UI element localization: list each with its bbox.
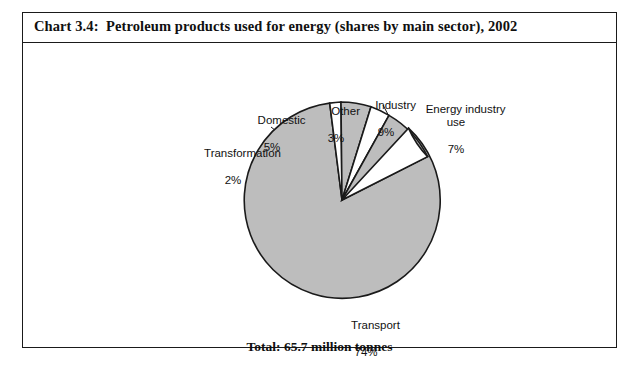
slice-label-other: Other 3%	[311, 91, 361, 172]
pie-plot-area: Transformation 2% Domestic 5% Other 3% I…	[23, 43, 616, 347]
slice-label-energy-industry-use-pct: 7%	[406, 143, 506, 157]
chart-title-bar: Chart 3.4: Petroleum products used for e…	[23, 13, 616, 43]
chart-total-note: Total: 65.7 million tonnes	[23, 339, 616, 355]
slice-label-domestic-pct: 5%	[230, 141, 314, 155]
slice-label-transport-name: Transport	[351, 319, 400, 331]
slice-label-transport: Transport 74%	[311, 305, 421, 369]
slice-label-domestic: Domestic 5%	[230, 100, 314, 181]
slice-label-domestic-name: Domestic	[258, 114, 306, 126]
page-title: Chart 3.4: Petroleum products used for e…	[34, 18, 517, 35]
slice-label-energy-industry-use-name: Energy industry use	[426, 103, 506, 129]
slice-label-other-pct: 3%	[311, 132, 361, 146]
slice-label-energy-industry-use: Energy industry use 7%	[406, 89, 506, 184]
pie-chart-graphic	[23, 43, 618, 349]
chart-frame: Chart 3.4: Petroleum products used for e…	[22, 12, 617, 348]
